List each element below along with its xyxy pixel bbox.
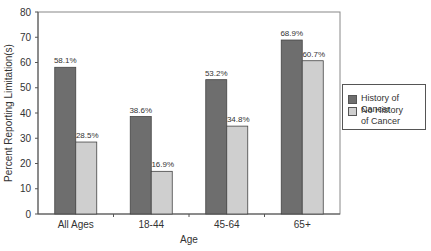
legend-swatch-no-history xyxy=(348,107,357,116)
bar xyxy=(302,61,323,214)
y-tick-label: 20 xyxy=(20,158,32,169)
legend-item-no-history: No History of Cancer xyxy=(348,105,403,127)
bar-value-label: 53.2% xyxy=(205,69,228,78)
bar xyxy=(151,171,172,214)
y-tick-label: 50 xyxy=(20,82,32,93)
bar xyxy=(281,40,302,214)
x-axis: All Ages18-4445-6465+ xyxy=(38,214,340,230)
y-axis: 01020304050607080 xyxy=(20,7,38,220)
legend-swatch-history xyxy=(348,95,357,104)
bar xyxy=(76,142,97,214)
bar-value-label: 60.7% xyxy=(302,50,325,59)
x-axis-label: Age xyxy=(180,234,198,245)
y-tick-label: 70 xyxy=(20,32,32,43)
bar-value-label: 58.1% xyxy=(54,56,77,65)
y-tick-label: 10 xyxy=(20,183,32,194)
x-tick-label: All Ages xyxy=(58,219,94,230)
legend-label-no-history: No History of Cancer xyxy=(361,105,403,127)
bar-value-label: 34.8% xyxy=(227,115,250,124)
x-tick-label: 45-64 xyxy=(214,219,240,230)
x-tick-label: 65+ xyxy=(294,219,311,230)
legend: History of Cancer No History of Cancer xyxy=(342,84,426,130)
bar-value-label: 38.6% xyxy=(129,106,152,115)
x-tick-label: 18-44 xyxy=(138,219,164,230)
bar-value-label: 16.9% xyxy=(151,160,174,169)
y-axis-label: Percent Reporting Limitation(s) xyxy=(3,44,14,182)
bar-value-label: 68.9% xyxy=(280,29,303,38)
bar xyxy=(130,117,151,214)
y-tick-label: 80 xyxy=(20,7,32,18)
y-tick-label: 60 xyxy=(20,57,32,68)
y-tick-label: 40 xyxy=(20,108,32,119)
bar xyxy=(227,126,248,214)
bar xyxy=(206,80,227,214)
y-tick-label: 0 xyxy=(25,209,31,220)
bar xyxy=(55,67,76,214)
bar-value-label: 28.5% xyxy=(76,131,99,140)
y-tick-label: 30 xyxy=(20,133,32,144)
